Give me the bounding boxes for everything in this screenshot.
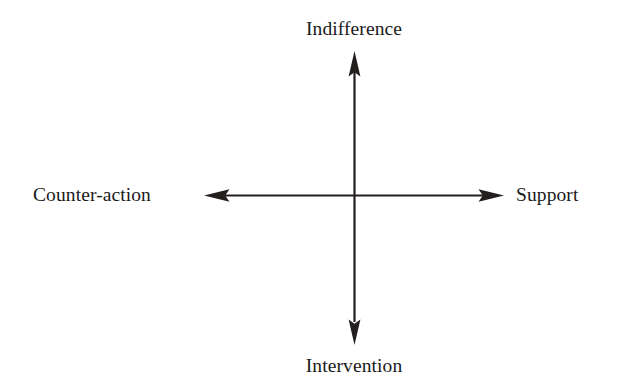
axis-label-bottom: Intervention <box>306 356 403 376</box>
axis-label-left: Counter-action <box>33 185 151 205</box>
axis-label-top: Indifference <box>306 19 402 39</box>
arrow-down-icon <box>349 320 361 346</box>
axis-label-right: Support <box>516 185 578 205</box>
diagram-canvas: Indifference Counter-action Support Inte… <box>0 0 628 388</box>
